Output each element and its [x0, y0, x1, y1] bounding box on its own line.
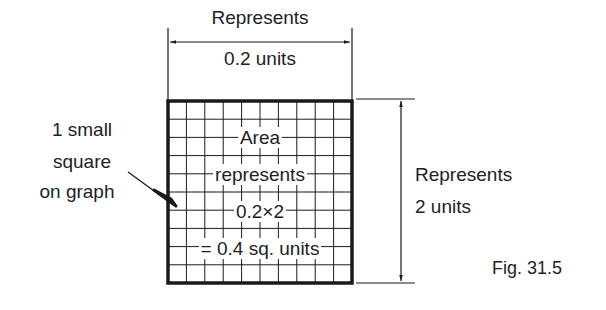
- top-dimension-label-line1: Represents: [168, 6, 352, 29]
- inner-text-line2: represents: [170, 164, 350, 186]
- right-dimension-label-line1: Represents: [415, 163, 512, 186]
- graph-inner-text: Area represents 0.2×2 = 0.4 sq. units: [170, 103, 350, 281]
- callout-label-line2: square: [37, 150, 127, 173]
- right-dimension-label-line2: 2 units: [415, 195, 471, 218]
- inner-text-line1: Area: [170, 127, 350, 149]
- inner-text-line3: 0.2×2: [170, 201, 350, 223]
- callout-label-line1: 1 small: [37, 118, 127, 141]
- inner-text-line4: = 0.4 sq. units: [170, 238, 350, 260]
- figure-caption: Fig. 31.5: [492, 257, 562, 280]
- top-dimension-label-line2: 0.2 units: [168, 47, 352, 70]
- callout-label-line3: on graph: [27, 180, 127, 203]
